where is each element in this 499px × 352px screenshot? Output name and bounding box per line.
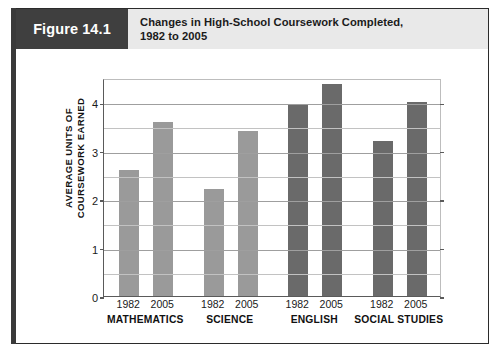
- y-axis-tick-label: 3: [92, 147, 98, 158]
- x-axis-year-label: 2005: [404, 298, 427, 310]
- y-axis-tick-mark: [100, 249, 104, 250]
- x-axis-year-label: 1982: [286, 298, 309, 310]
- chart-area: AVERAGE UNITS OF COURSEWORK EARNED 01234…: [16, 49, 488, 343]
- gridline: [104, 274, 440, 275]
- bar-mathematics-2005: [153, 122, 173, 296]
- bar-english-2005: [322, 84, 342, 296]
- bars-layer: [104, 80, 440, 296]
- y-axis-title-line-1: AVERAGE UNITS OF: [63, 108, 76, 208]
- figure-number-tab: Figure 14.1: [16, 9, 128, 49]
- x-axis-category-label: SCIENCE: [206, 314, 253, 325]
- gridline: [104, 153, 440, 154]
- x-axis-category-label: SOCIAL STUDIES: [354, 314, 443, 325]
- x-axis-category-label: ENGLISH: [291, 314, 338, 325]
- figure-number-label: Figure 14.1: [33, 21, 111, 37]
- y-axis-tick-mark: [100, 104, 104, 105]
- y-axis-tick-mark: [100, 200, 104, 201]
- y-axis-tick-label: 4: [92, 99, 98, 110]
- y-axis-tick-label: 1: [92, 244, 98, 255]
- bar-social-studies-2005: [407, 102, 427, 296]
- y-axis-tick-mark: [440, 104, 444, 105]
- gridline: [104, 250, 440, 251]
- y-axis-title: AVERAGE UNITS OF COURSEWORK EARNED: [58, 63, 92, 253]
- gridline: [104, 201, 440, 202]
- y-axis-tick-mark: [440, 249, 444, 250]
- y-axis-tick-mark: [440, 152, 444, 153]
- figure-title-line-1: Changes in High-School Coursework Comple…: [140, 15, 480, 29]
- y-axis-tick-label: 2: [92, 196, 98, 207]
- y-axis-tick-mark: [100, 152, 104, 153]
- figure-title-line-2: 1982 to 2005: [140, 29, 480, 43]
- gridline: [104, 128, 440, 129]
- gridline: [104, 225, 440, 226]
- gridline: [104, 104, 440, 105]
- bar-science-2005: [238, 131, 258, 296]
- y-axis-title-line-2: COURSEWORK EARNED: [75, 98, 88, 219]
- x-axis-year-label: 2005: [151, 298, 174, 310]
- x-axis-year-label: 1982: [370, 298, 393, 310]
- plot-area: 01234: [103, 79, 441, 297]
- x-axis-year-label: 2005: [320, 298, 343, 310]
- x-axis-year-label: 1982: [117, 298, 140, 310]
- figure-title: Changes in High-School Coursework Comple…: [140, 9, 480, 49]
- figure-root: Figure 14.1 Changes in High-School Cours…: [0, 0, 499, 352]
- bar-social-studies-1982: [373, 141, 393, 296]
- x-axis-year-label: 1982: [201, 298, 224, 310]
- bar-mathematics-1982: [119, 170, 139, 296]
- gridline: [104, 177, 440, 178]
- y-axis-tick-label: 0: [92, 293, 98, 304]
- x-axis-labels: 19822005MATHEMATICS19822005SCIENCE198220…: [103, 298, 441, 338]
- y-axis-tick-mark: [440, 200, 444, 201]
- x-axis-category-label: MATHEMATICS: [107, 314, 184, 325]
- bar-science-1982: [204, 189, 224, 296]
- x-axis-year-label: 2005: [235, 298, 258, 310]
